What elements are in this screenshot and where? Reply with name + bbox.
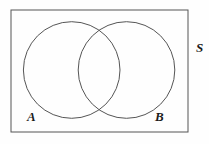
venn-diagram-canvas: A B S: [0, 0, 209, 144]
set-b-label: B: [154, 109, 164, 124]
venn-diagram-figure: A B S: [0, 0, 209, 144]
set-a-label: A: [26, 109, 36, 124]
universal-set-label: S: [196, 40, 203, 55]
